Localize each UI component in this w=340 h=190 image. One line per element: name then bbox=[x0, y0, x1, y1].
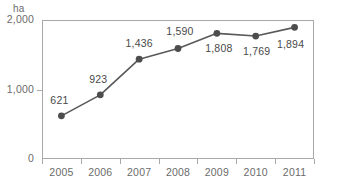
data-point-label: 1,436 bbox=[126, 37, 153, 49]
series-line bbox=[61, 27, 294, 115]
line-chart: ha 01,0002,000 2005200620072008200920102… bbox=[0, 0, 340, 190]
data-point-marker bbox=[97, 91, 104, 98]
data-point-label: 1,590 bbox=[166, 25, 193, 37]
data-point-marker bbox=[291, 24, 298, 31]
data-point-label: 923 bbox=[89, 73, 107, 85]
data-point-marker bbox=[58, 112, 65, 119]
data-point-label: 1,894 bbox=[277, 38, 304, 50]
data-point-marker bbox=[175, 45, 182, 52]
data-point-marker bbox=[213, 30, 220, 37]
data-point-label: 1,808 bbox=[205, 42, 232, 54]
data-point-label: 1,769 bbox=[243, 45, 270, 57]
series-markers bbox=[58, 24, 298, 119]
data-point-label: 621 bbox=[50, 94, 68, 106]
data-point-marker bbox=[136, 56, 143, 63]
data-point-marker bbox=[252, 33, 259, 40]
